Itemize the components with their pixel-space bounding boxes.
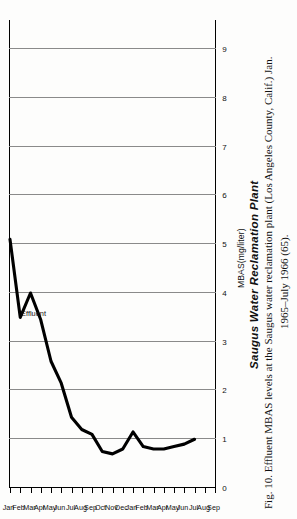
- plot-area: [9, 20, 216, 488]
- y-tick-label-8: 8: [218, 94, 232, 103]
- y-tick-label-7: 7: [218, 142, 232, 151]
- tick-Jul-6: [72, 488, 73, 493]
- tick-Apr-3: [41, 488, 42, 493]
- x-tick-label-Sep-20: Sep: [203, 503, 225, 512]
- tick-Jun-5: [61, 488, 62, 493]
- tick-May-4: [51, 488, 52, 493]
- y-tick-label-5: 5: [218, 240, 232, 249]
- effluent-line-path: [10, 239, 195, 454]
- tick-Sep-8: [92, 488, 93, 493]
- tick-Mar-14: [154, 488, 155, 493]
- tick-Apr-15: [164, 488, 165, 493]
- tick-Jul-18: [195, 488, 196, 493]
- tick-Feb-13: [143, 488, 144, 493]
- y-tick-label-3: 3: [218, 337, 232, 346]
- effluent-series-line: [9, 20, 216, 488]
- y-tick-label-9: 9: [218, 45, 232, 54]
- tick-Mar-2: [31, 488, 32, 493]
- tick-Nov-10: [113, 488, 114, 493]
- y-tick-label-1: 1: [218, 435, 232, 444]
- y-tick-label-2: 2: [218, 386, 232, 395]
- series-annotation-effluent: Effluent: [21, 310, 46, 319]
- y-axis-title: MBAS(mg/liter): [236, 228, 246, 288]
- tick-Sep-20: [215, 488, 216, 493]
- figure-page: Saugus Water Reclamation Plant 987654321…: [0, 0, 297, 519]
- tick-May-16: [174, 488, 175, 493]
- y-tick-label-6: 6: [218, 191, 232, 200]
- tick-Jun-17: [184, 488, 185, 493]
- tick-Aug-19: [205, 488, 206, 493]
- tick-Jan-12: [133, 488, 134, 493]
- tick-Jan-0: [10, 488, 11, 493]
- chart-title: Saugus Water Reclamation Plant: [248, 181, 260, 369]
- tick-Aug-7: [82, 488, 83, 493]
- y-tick-label-4: 4: [218, 289, 232, 298]
- rotated-chart-stage: Saugus Water Reclamation Plant 987654321…: [0, 0, 297, 519]
- tick-Dec-11: [123, 488, 124, 493]
- tick-Oct-9: [102, 488, 103, 493]
- tick-Feb-1: [20, 488, 21, 493]
- y-tick-label-0: 0: [218, 484, 232, 493]
